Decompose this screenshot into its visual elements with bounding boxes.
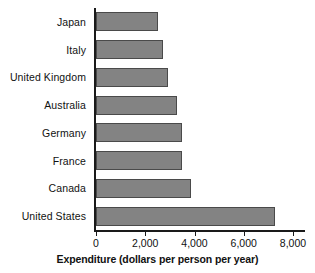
bar-row: [96, 202, 306, 230]
x-axis-line: [94, 230, 305, 232]
bar-canada: [96, 179, 191, 198]
x-tick-mark: [96, 231, 97, 236]
y-axis-label-australia: Australia: [0, 91, 90, 119]
bar-italy: [96, 40, 163, 59]
bar-france: [96, 151, 182, 170]
bar-series: [96, 8, 306, 230]
bar-united-states: [96, 207, 275, 226]
bar-japan: [96, 12, 158, 31]
y-axis-category-labels: Japan Italy United Kingdom Australia Ger…: [0, 8, 90, 230]
y-axis-label-france: France: [0, 147, 90, 175]
x-tick-label: 6,000: [231, 237, 257, 249]
bar-row: [96, 119, 306, 147]
x-tick-label: 0: [93, 237, 99, 249]
bar-row: [96, 91, 306, 119]
x-tick-label: 4,000: [181, 237, 207, 249]
y-axis-label-united-kingdom: United Kingdom: [0, 64, 90, 92]
bar-row: [96, 36, 306, 64]
x-tick-label: 8,000: [280, 237, 306, 249]
x-tick-mark: [195, 231, 196, 236]
x-tick-mark: [293, 231, 294, 236]
bar-germany: [96, 123, 182, 142]
y-axis-label-germany: Germany: [0, 119, 90, 147]
bar-row: [96, 175, 306, 203]
bar-united-kingdom: [96, 68, 168, 87]
x-axis-title: Expenditure (dollars per person per year…: [0, 253, 315, 265]
bar-row: [96, 64, 306, 92]
y-axis-label-united-states: United States: [0, 202, 90, 230]
bar-chart: Japan Italy United Kingdom Australia Ger…: [0, 0, 315, 273]
bar-row: [96, 147, 306, 175]
y-axis-label-italy: Italy: [0, 36, 90, 64]
x-tick-mark: [145, 231, 146, 236]
x-tick-mark: [244, 231, 245, 236]
x-tick-label: 2,000: [132, 237, 158, 249]
y-axis-label-canada: Canada: [0, 175, 90, 203]
bar-row: [96, 8, 306, 36]
bar-australia: [96, 96, 177, 115]
y-axis-label-japan: Japan: [0, 8, 90, 36]
